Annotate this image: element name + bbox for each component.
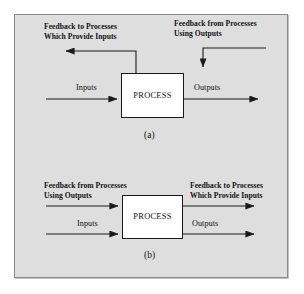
process-box-b: PROCESS [122, 195, 183, 239]
caption-a: (a) [144, 131, 155, 140]
feedback-right-label-line2-a: Using Outputs [174, 29, 222, 38]
process-box-label-b: PROCESS [133, 212, 171, 221]
feedback-left-label-line1-a: Feedback to Processes [44, 22, 117, 31]
feedback-left-label-line2-b: Using Outputs [44, 191, 92, 200]
feedback-right-label-line2-b: Which Provide Inputs [190, 191, 263, 200]
process-box-label-a: PROCESS [133, 91, 171, 100]
feedback-right-label-line1-a: Feedback from Processes [174, 19, 257, 28]
input-label-b: Inputs [77, 219, 98, 228]
feedback-left-label-line2-a: Which Provide Inputs [44, 32, 117, 41]
output-label-b: Outputs [192, 219, 218, 228]
figure-page: Feedback to Processes Which Provide Inpu… [0, 0, 304, 294]
caption-b: (b) [144, 251, 155, 260]
input-label-a: Inputs [76, 83, 97, 92]
output-label-a: Outputs [194, 83, 220, 92]
process-box-a: PROCESS [121, 73, 184, 118]
feedback-right-label-line1-b: Feedback to Processes [190, 181, 263, 190]
feedback-left-label-line1-b: Feedback from Processes [44, 181, 127, 190]
